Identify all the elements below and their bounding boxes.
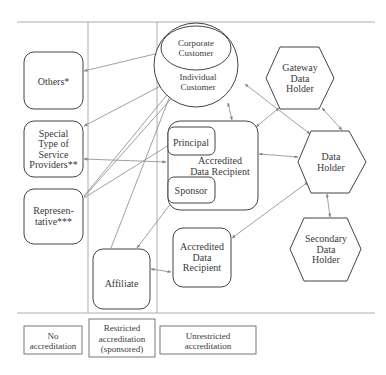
node-special-providers[interactable]: SpecialType ofServiceProviders** [24,121,83,177]
label-line: Represen- [33,205,74,216]
label-line: accreditation [30,341,77,351]
node-others[interactable]: Others* [24,52,83,109]
representative-label: Represen-tative*** [33,205,74,227]
label-line: Data [193,252,212,263]
diagram-canvas: Others* SpecialType ofServiceProviders**… [0,0,386,375]
label-line: Data [322,151,341,162]
arrow-dataholder-secondary [327,194,330,217]
node-gateway-holder[interactable]: GatewayDataHolder [266,47,334,109]
node-secondary-holder[interactable]: SecondaryDataHolder [290,218,361,281]
arrow-rep-individual-a [84,85,175,196]
node-data-holder[interactable]: DataHolder [298,131,366,193]
node-representative[interactable]: Represen-tative*** [24,189,83,244]
legend-restricted-accreditation: Restrictedaccreditation(sponsored) [89,319,155,357]
label-line: Type of [38,138,69,149]
accredited-recipient-main-label: AccreditedData Recipient [190,155,250,177]
arrow-gateway-dataholder [322,108,342,130]
label-line: Customer [179,48,214,58]
legend-unrestricted-accreditation-label: Unrestrictedaccreditation [185,331,232,351]
arrow-rep-principal [84,140,177,198]
label-line: Unrestricted [186,331,231,341]
label-line: Special [39,128,69,139]
label-line: Providers** [29,159,77,170]
label-line: Data [291,73,310,84]
legend-restricted-accreditation-label: Restrictedaccreditation(sponsored) [99,323,146,354]
label-line: Affiliate [105,278,139,289]
label-line: accreditation [185,341,232,351]
label-line: No [48,331,59,341]
node-accredited-recipient-2[interactable]: AccreditedDataRecipient [173,228,231,287]
node-customers[interactable]: CorporateCustomer IndividualCustomer [154,23,238,107]
principal-label: Principal [173,137,209,148]
label-line: Accredited [180,241,224,252]
individual-customer-label: IndividualCustomer [180,72,217,92]
arrow-affiliate-adr2 [151,269,171,272]
arrow-adr-dataholder [259,154,298,157]
label-line: accreditation [99,334,146,344]
label-line: Principal [173,137,209,148]
arrow-special-individual [84,80,172,126]
arrow-individual-adr [228,103,232,120]
label-line: Secondary [305,233,347,244]
legend-unrestricted-accreditation: Unrestrictedaccreditation [160,326,256,354]
node-sponsor[interactable]: Sponsor [168,177,215,203]
node-affiliate[interactable]: Affiliate [93,249,150,309]
label-line: Sponsor [175,185,208,196]
label-line: Recipient [183,262,222,273]
affiliate-label: Affiliate [105,278,139,289]
label-line: Data [317,244,336,255]
label-line: Data Recipient [190,166,250,177]
label-line: (sponsored) [101,344,144,354]
label-line: tative*** [35,216,72,227]
label-line: Gateway [282,62,318,73]
arrow-special-principal [84,159,166,162]
label-line: Individual [180,72,217,82]
label-line: Others* [38,76,70,87]
label-line: Customer [181,82,216,92]
arrow-gateway-adr [256,108,279,127]
label-line: Holder [317,162,345,173]
legend-no-accreditation: Noaccreditation [24,326,82,354]
others-label: Others* [38,76,70,87]
sponsor-label: Sponsor [175,185,208,196]
label-line: Restricted [104,323,141,333]
label-line: Holder [286,83,314,94]
node-principal[interactable]: Principal [168,127,215,155]
arrow-affiliate-individual [111,88,173,248]
label-line: Corporate [178,38,214,48]
corporate-customer-label: CorporateCustomer [178,38,214,58]
label-line: Accredited [198,155,242,166]
label-line: Holder [312,254,340,265]
label-line: Service [39,149,70,160]
